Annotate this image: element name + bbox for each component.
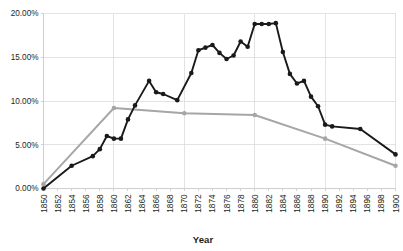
series-dark bbox=[41, 21, 398, 191]
x-tick-label: 1862 bbox=[124, 194, 133, 213]
data-point bbox=[41, 186, 46, 191]
data-point bbox=[302, 79, 307, 84]
x-tick-label: 1878 bbox=[237, 194, 246, 213]
x-tick-label: 1872 bbox=[194, 194, 203, 213]
data-point bbox=[393, 163, 398, 168]
x-tick-label: 1900 bbox=[392, 194, 401, 213]
data-point bbox=[147, 79, 152, 84]
x-tick-label: 1884 bbox=[279, 194, 288, 213]
data-point bbox=[323, 122, 328, 127]
data-point bbox=[238, 39, 243, 44]
data-point bbox=[119, 136, 124, 141]
data-point bbox=[330, 124, 335, 129]
data-point bbox=[69, 163, 74, 168]
data-point bbox=[252, 113, 257, 118]
x-tick-label: 1866 bbox=[152, 194, 161, 213]
x-tick-label: 1868 bbox=[166, 194, 175, 213]
x-tick-label: 1870 bbox=[180, 194, 189, 213]
data-point bbox=[98, 147, 103, 152]
x-tick-label: 1858 bbox=[96, 194, 105, 213]
data-point bbox=[105, 134, 110, 139]
data-point bbox=[231, 53, 236, 58]
series-line-gray-series bbox=[44, 108, 396, 184]
y-tick-label: 20.00% bbox=[11, 9, 39, 18]
x-tick-label: 1894 bbox=[349, 194, 358, 213]
data-point bbox=[161, 92, 166, 97]
data-point bbox=[182, 111, 187, 116]
data-point bbox=[266, 22, 271, 27]
line-chart: 0.00%5.00%10.00%15.00%20.00% 18501852185… bbox=[0, 0, 403, 251]
y-tick-label: 5.00% bbox=[15, 141, 38, 150]
data-point bbox=[210, 43, 215, 48]
data-point bbox=[175, 98, 180, 103]
x-tick-label: 1892 bbox=[335, 194, 344, 213]
x-tick-label: 1886 bbox=[293, 194, 302, 213]
x-tick-label: 1888 bbox=[307, 194, 316, 213]
x-tick-label: 1882 bbox=[265, 194, 274, 213]
x-tick-label: 1890 bbox=[321, 194, 330, 213]
data-point bbox=[295, 81, 300, 86]
data-point bbox=[126, 117, 131, 122]
horizontal-gridlines bbox=[44, 14, 396, 189]
data-point bbox=[393, 152, 398, 157]
data-point bbox=[224, 57, 229, 62]
x-axis-tick-labels: 1850185218541856185818601862186418661868… bbox=[40, 189, 401, 213]
x-tick-label: 1856 bbox=[82, 194, 91, 213]
data-point bbox=[133, 103, 138, 108]
data-point bbox=[203, 45, 208, 50]
x-tick-label: 1850 bbox=[40, 194, 49, 213]
data-point bbox=[288, 72, 293, 77]
data-point bbox=[358, 127, 363, 132]
data-point bbox=[196, 48, 201, 53]
x-tick-label: 1876 bbox=[223, 194, 232, 213]
series-gray bbox=[41, 106, 398, 187]
data-point bbox=[189, 71, 194, 76]
data-point bbox=[316, 104, 321, 109]
x-tick-label: 1860 bbox=[110, 194, 119, 213]
x-axis-title: Year bbox=[193, 234, 214, 245]
data-point bbox=[323, 136, 328, 141]
data-point bbox=[309, 94, 314, 99]
data-point bbox=[112, 136, 117, 141]
data-point bbox=[274, 21, 279, 26]
chart-container: 0.00%5.00%10.00%15.00%20.00% 18501852185… bbox=[0, 0, 403, 251]
y-axis-tick-labels: 0.00%5.00%10.00%15.00%20.00% bbox=[11, 9, 44, 193]
data-point bbox=[252, 22, 257, 27]
x-tick-label: 1896 bbox=[363, 194, 372, 213]
data-point bbox=[259, 22, 264, 27]
data-point bbox=[154, 90, 159, 95]
data-point bbox=[217, 51, 222, 56]
x-tick-label: 1898 bbox=[377, 194, 386, 213]
data-point bbox=[281, 50, 286, 55]
y-tick-label: 10.00% bbox=[11, 97, 39, 106]
x-tick-label: 1852 bbox=[54, 194, 63, 213]
data-point bbox=[41, 182, 46, 187]
data-point bbox=[245, 44, 250, 49]
x-tick-label: 1864 bbox=[138, 194, 147, 213]
data-point bbox=[112, 106, 117, 111]
x-tick-label: 1874 bbox=[208, 194, 217, 213]
series-line-dark-series bbox=[44, 23, 396, 188]
y-tick-label: 0.00% bbox=[15, 184, 38, 193]
y-tick-label: 15.00% bbox=[11, 53, 39, 62]
x-tick-label: 1880 bbox=[251, 194, 260, 213]
x-tick-label: 1854 bbox=[68, 194, 77, 213]
data-point bbox=[90, 154, 95, 159]
